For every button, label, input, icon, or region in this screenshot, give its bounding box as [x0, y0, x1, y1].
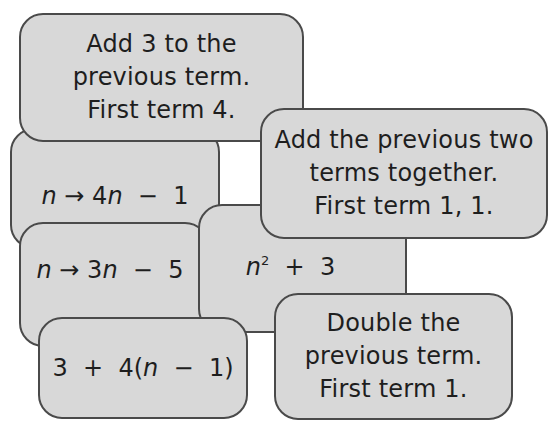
card-line: Add 3 to the: [73, 28, 251, 61]
card-text: Double the previous term. First term 1.: [305, 307, 483, 406]
operator: +: [285, 253, 305, 281]
constant: 5: [168, 256, 183, 284]
card-line: previous term.: [73, 61, 251, 94]
card-line: First term 1.: [305, 373, 483, 406]
coefficient: 4: [92, 182, 107, 210]
card-text: Add 3 to the previous term. First term 4…: [73, 28, 251, 127]
card-line: terms together.: [274, 157, 533, 190]
var-n: n: [36, 256, 51, 284]
arrow-icon: →: [64, 182, 84, 210]
expression-4n-minus-1: n → 4n − 1: [41, 181, 188, 211]
card-line: First term 1, 1.: [274, 190, 533, 223]
constant: 3: [52, 354, 67, 382]
var-n: n: [102, 256, 117, 284]
operator: −: [133, 256, 153, 284]
var-n: n: [41, 182, 56, 210]
var-n: n: [107, 182, 122, 210]
var-n: n: [246, 253, 261, 281]
card-line: previous term.: [305, 340, 483, 373]
expression-3-plus-4-n-minus-1: 3 + 4(n − 1): [52, 353, 233, 383]
operator: −: [174, 354, 194, 382]
constant: 1): [209, 354, 234, 382]
constant: 1: [173, 182, 188, 210]
card-line: First term 4.: [73, 94, 251, 127]
arrow-icon: →: [59, 256, 79, 284]
expression-3n-minus-5: n → 3n − 5: [36, 255, 183, 285]
card-line: Add the previous two: [274, 124, 533, 157]
operator: −: [138, 182, 158, 210]
card-3-plus-4-n-minus-1[interactable]: 3 + 4(n − 1): [38, 317, 248, 419]
card-add-previous-two-terms[interactable]: Add the previous two terms together. Fir…: [260, 108, 548, 239]
coefficient: 3: [87, 256, 102, 284]
card-line: Double the: [305, 307, 483, 340]
constant: 3: [320, 253, 335, 281]
coefficient: 4(: [118, 354, 143, 382]
exponent: 2: [261, 253, 269, 268]
card-text: Add the previous two terms together. Fir…: [274, 124, 533, 223]
var-n: n: [143, 354, 158, 382]
card-double-previous-term[interactable]: Double the previous term. First term 1.: [274, 293, 513, 420]
operator: +: [83, 354, 103, 382]
expression-n-squared-plus-3: n2 + 3: [246, 246, 335, 282]
